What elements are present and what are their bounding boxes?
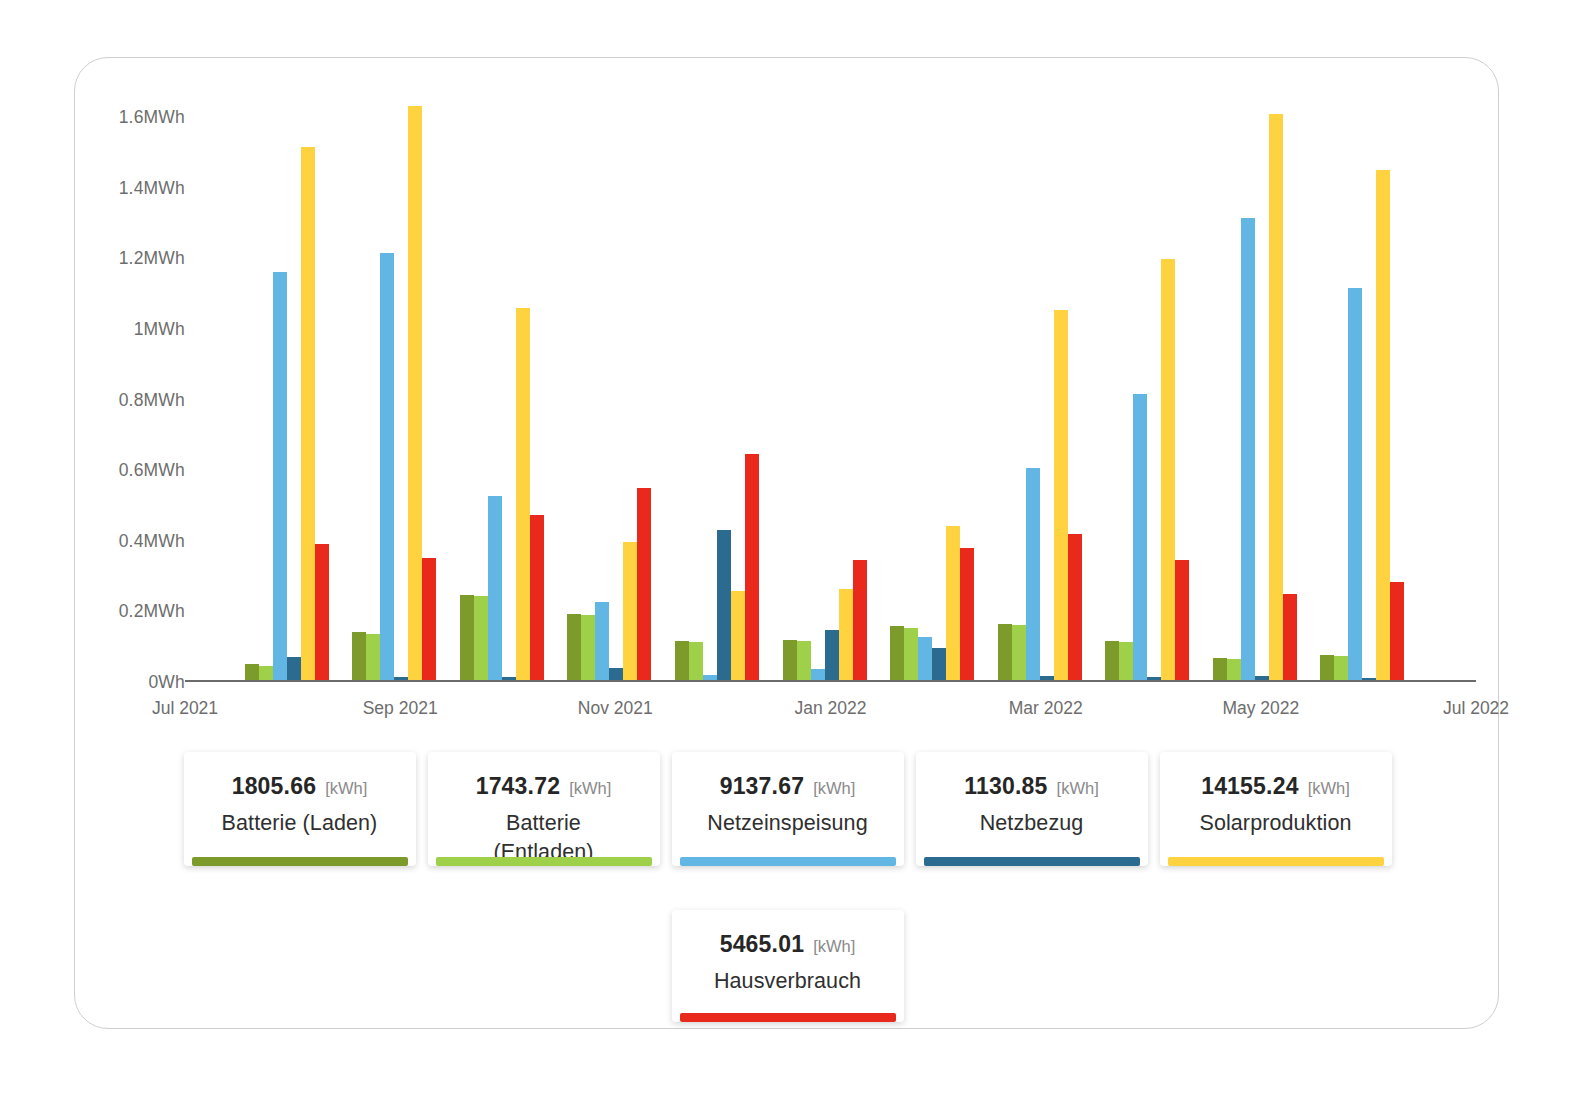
y-axis-tick: 0.4MWh <box>119 530 185 551</box>
bar <box>745 454 759 680</box>
bar <box>1241 218 1255 680</box>
legend-color-bar <box>436 857 652 866</box>
bar <box>301 147 315 680</box>
legend-value: 1130.85 <box>964 773 1047 800</box>
bar-group <box>675 82 759 680</box>
bar <box>366 634 380 680</box>
bar <box>609 668 623 680</box>
bar <box>946 526 960 680</box>
bar <box>797 641 811 680</box>
x-axis-tick: Jan 2022 <box>794 698 866 719</box>
x-axis-tick: May 2022 <box>1222 698 1299 719</box>
bar <box>918 637 932 680</box>
bar-series-container <box>185 82 1476 680</box>
y-axis-tick: 1.2MWh <box>119 248 185 269</box>
legend-value: 14155.24 <box>1201 773 1299 800</box>
legend-series-label: Batterie (Laden) <box>222 809 378 838</box>
bar <box>1227 659 1241 680</box>
bar <box>932 648 946 680</box>
legend-value: 1743.72 <box>476 773 561 800</box>
legend-unit: [kWh] <box>325 779 367 798</box>
chart-panel: 0Wh0.2MWh0.4MWh0.6MWh0.8MWh1MWh1.2MWh1.4… <box>74 57 1499 1029</box>
bar <box>783 640 797 680</box>
bar <box>1054 310 1068 680</box>
bar-group <box>245 82 329 680</box>
bar <box>273 272 287 680</box>
bar <box>460 595 474 680</box>
legend-card[interactable]: 1130.85[kWh]Netzbezug <box>916 752 1148 866</box>
bar <box>717 530 731 680</box>
bar-group <box>890 82 974 680</box>
bar-group <box>567 82 651 680</box>
x-axis-tick: Mar 2022 <box>1009 698 1083 719</box>
legend-unit: [kWh] <box>813 937 855 956</box>
bar <box>731 591 745 680</box>
legend-color-bar <box>680 857 896 866</box>
legend-card[interactable]: 9137.67[kWh]Netzeinspeisung <box>672 752 904 866</box>
legend-unit: [kWh] <box>813 779 855 798</box>
bar <box>1133 394 1147 680</box>
x-axis-tick: Nov 2021 <box>578 698 653 719</box>
bar <box>1320 655 1334 680</box>
legend-color-bar <box>1168 857 1384 866</box>
legend-card[interactable]: 14155.24[kWh]Solarproduktion <box>1160 752 1392 866</box>
legend-unit: [kWh] <box>1308 779 1350 798</box>
bar <box>853 560 867 680</box>
bar-group <box>460 82 544 680</box>
bar <box>1390 582 1404 680</box>
bar <box>904 628 918 680</box>
y-axis-tick: 1.6MWh <box>119 107 185 128</box>
legend-value: 9137.67 <box>720 773 805 800</box>
legend-color-bar <box>924 857 1140 866</box>
bar <box>825 630 839 680</box>
legend-row-primary: 1805.66[kWh]Batterie (Laden)1743.72[kWh]… <box>75 752 1500 866</box>
bar <box>245 664 259 680</box>
bar <box>422 558 436 680</box>
bar <box>488 496 502 680</box>
energy-statistics-page: 0Wh0.2MWh0.4MWh0.6MWh0.8MWh1MWh1.2MWh1.4… <box>0 0 1573 1106</box>
bar <box>530 515 544 680</box>
bar-group <box>1213 82 1297 680</box>
x-axis-tick: Sep 2021 <box>363 698 438 719</box>
y-axis-tick: 1.4MWh <box>119 177 185 198</box>
legend-value: 5465.01 <box>720 931 805 958</box>
bar-group <box>1105 82 1189 680</box>
bar-group <box>998 82 1082 680</box>
legend-series-label: Netzbezug <box>980 809 1084 838</box>
bar <box>689 642 703 680</box>
energy-bar-chart: 0Wh0.2MWh0.4MWh0.6MWh0.8MWh1MWh1.2MWh1.4… <box>75 58 1500 758</box>
legend-value-row: 14155.24[kWh] <box>1201 773 1350 800</box>
y-axis-tick: 0.2MWh <box>119 601 185 622</box>
bar <box>380 253 394 680</box>
legend-color-bar <box>680 1013 896 1022</box>
bar <box>890 626 904 680</box>
legend-series-label: Hausverbrauch <box>714 967 861 996</box>
legend-row-secondary: 5465.01[kWh]Hausverbrauch <box>75 910 1500 1022</box>
legend-card[interactable]: 1805.66[kWh]Batterie (Laden) <box>184 752 416 866</box>
bar <box>595 602 609 680</box>
y-axis-tick: 0.6MWh <box>119 460 185 481</box>
bar <box>839 589 853 680</box>
bar <box>637 488 651 680</box>
bar <box>960 548 974 680</box>
bar <box>1012 625 1026 680</box>
legend-unit: [kWh] <box>1057 779 1099 798</box>
bar <box>259 666 273 680</box>
x-axis-tick: Jul 2022 <box>1443 698 1509 719</box>
legend-card[interactable]: 1743.72[kWh]Batterie(Entladen) <box>428 752 660 866</box>
bar <box>1119 642 1133 680</box>
bar <box>1348 288 1362 680</box>
legend-series-label: Netzeinspeisung <box>707 809 867 838</box>
bar <box>287 657 301 680</box>
bar <box>623 542 637 680</box>
bar <box>567 614 581 680</box>
bar <box>408 106 422 680</box>
legend-value-row: 1130.85[kWh] <box>964 773 1098 800</box>
legend-card[interactable]: 5465.01[kWh]Hausverbrauch <box>672 910 904 1022</box>
bar <box>581 615 595 680</box>
bar <box>1376 170 1390 680</box>
bar <box>1175 560 1189 680</box>
bar <box>352 632 366 680</box>
bar <box>1283 594 1297 680</box>
bar <box>1026 468 1040 680</box>
